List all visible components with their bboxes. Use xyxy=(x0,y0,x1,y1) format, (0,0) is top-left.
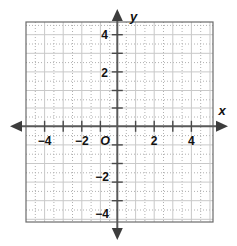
x-tick-label: −2 xyxy=(75,134,89,148)
coordinate-plane-figure: −4 −2 2 4 4 2 −2 −4 y x O xyxy=(0,0,237,246)
y-tick-label: 4 xyxy=(101,28,108,42)
x-tick-label: 4 xyxy=(188,134,195,148)
y-tick-label: −2 xyxy=(95,170,109,184)
origin-label: O xyxy=(100,134,110,148)
y-tick-label: −4 xyxy=(95,207,109,221)
x-tick-label: 2 xyxy=(151,134,158,148)
x-axis-label: x xyxy=(217,103,226,118)
y-tick-label: 2 xyxy=(101,66,108,80)
canvas-background xyxy=(0,0,237,246)
coordinate-grid-svg: −4 −2 2 4 4 2 −2 −4 y x O xyxy=(0,0,237,246)
y-axis-label: y xyxy=(129,9,138,24)
x-tick-label: −4 xyxy=(38,134,52,148)
